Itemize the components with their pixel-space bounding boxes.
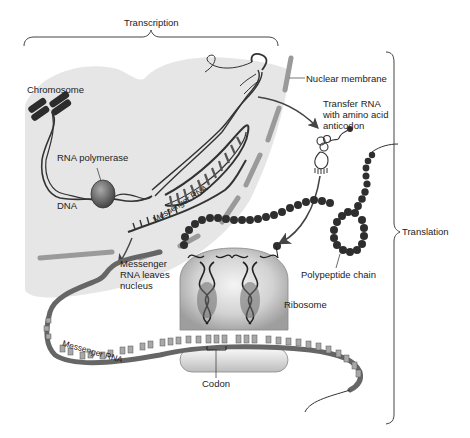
transcription-brace: [24, 30, 278, 46]
transfer-rna-icon: [315, 127, 353, 174]
transfer-rna-label-line2: with amino acid: [323, 109, 388, 120]
mrna-leaves-label-line1: Messenger: [120, 258, 167, 269]
nuclear-membrane-label: Nuclear membrane: [306, 73, 387, 84]
ribosome-label: Ribosome: [284, 299, 327, 310]
polypeptide-pointer: [336, 254, 340, 268]
transcription-translation-diagram: [0, 0, 470, 438]
chromosome-label: Chromosome: [27, 84, 84, 95]
translation-label: Translation: [402, 226, 449, 237]
ribosome-icon: [180, 246, 288, 372]
translation-brace: [386, 52, 400, 424]
transcription-label: Transcription: [124, 17, 179, 28]
transfer-rna-label-line3: anticodon: [323, 120, 364, 131]
transfer-rna-label-line1: Transfer RNA: [323, 98, 381, 109]
rna-polymerase-label: RNA polymerase: [57, 152, 128, 163]
mrna-leaves-label-line3: nucleus: [120, 280, 153, 291]
rna-polymerase-icon: [91, 180, 115, 208]
dna-label: DNA: [57, 200, 77, 211]
polypeptide-chain-label: Polypeptide chain: [301, 269, 376, 280]
codon-label: Codon: [202, 378, 230, 389]
mrna-leaves-label-line2: RNA leaves: [120, 269, 170, 280]
